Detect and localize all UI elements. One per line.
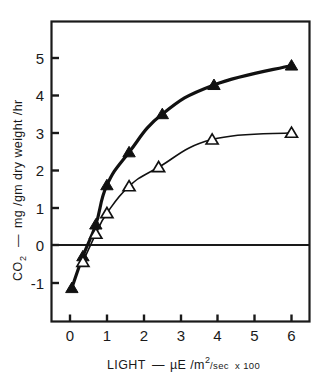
y-tick-label: -1	[31, 275, 44, 292]
x-tick-label: 6	[287, 327, 295, 344]
y-axis-title-sub2: 2	[18, 256, 28, 261]
x-tick-labels: 0 1 2 3 4 5 6	[66, 327, 296, 344]
y-tick-label: 5	[36, 50, 44, 67]
data-point-filled-triangle	[66, 282, 78, 292]
y-axis-ticks	[52, 58, 60, 283]
x-axis-title-persec: /sec	[210, 360, 229, 371]
x-axis-title-x100: x 100	[235, 360, 260, 371]
y-axis-title-units: mg /gm dry weight /hr	[11, 99, 25, 228]
x-tick-label: 4	[213, 327, 221, 344]
y-tick-labels: 5 4 3 2 1 0 -1	[31, 50, 44, 292]
data-point-filled-triangle	[285, 60, 297, 70]
y-tick-label: 2	[36, 162, 44, 179]
y-tick-label: 3	[36, 125, 44, 142]
x-tick-label: 1	[103, 327, 111, 344]
x-tick-label: 3	[177, 327, 185, 344]
data-series-layer	[66, 60, 298, 293]
chart-canvas: 0 1 2 3 4 5 6 5 4 3 2 1 0 -1 LIGHT — µE …	[0, 0, 331, 386]
y-tick-label: 4	[36, 87, 44, 104]
x-tick-label: 2	[140, 327, 148, 344]
y-axis-title-co: CO	[11, 261, 25, 281]
data-point-open-triangle	[101, 208, 113, 218]
series-filled-triangle	[66, 60, 298, 293]
x-axis-title: LIGHT — µE /m 2 /sec x 100	[107, 355, 260, 372]
plot-frame	[52, 22, 310, 322]
y-tick-label: 0	[36, 237, 44, 254]
chart-figure: 0 1 2 3 4 5 6 5 4 3 2 1 0 -1 LIGHT — µE …	[0, 0, 331, 386]
x-axis-title-dash: —	[152, 358, 165, 372]
series-line	[72, 65, 292, 288]
data-point-open-triangle	[286, 127, 298, 137]
y-tick-label: 1	[36, 200, 44, 217]
y-axis-title-dash: —	[11, 234, 25, 247]
series-line	[83, 133, 292, 262]
y-axis-title: CO 2 — mg /gm dry weight /hr	[11, 99, 28, 281]
x-tick-label: 5	[250, 327, 258, 344]
x-axis-title-light: LIGHT	[107, 358, 146, 372]
data-point-open-triangle	[153, 162, 165, 172]
data-point-filled-triangle	[101, 179, 113, 189]
x-tick-label: 0	[66, 327, 74, 344]
x-axis-title-units: µE /m	[170, 358, 205, 372]
